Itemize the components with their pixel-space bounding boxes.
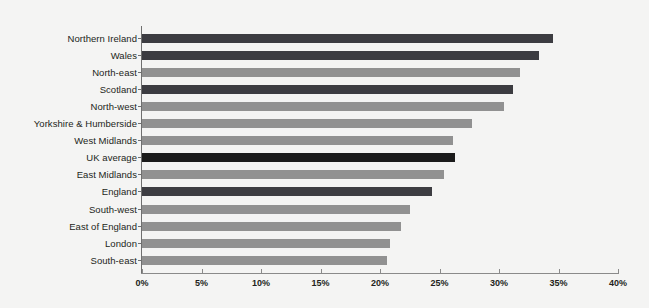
bar-row: Wales [0,47,649,64]
bar-category-label: UK average [0,149,137,166]
bar-row: London [0,235,649,252]
x-axis-tick-mark [202,269,203,274]
x-axis-tick-label: 35% [549,277,567,289]
x-axis-tick-mark [380,269,381,274]
bar-category-label: Scotland [0,81,137,98]
bar-chart: Northern IrelandWalesNorth-eastScotlandN… [0,0,649,308]
bar-category-label: East of England [0,218,137,235]
bar-row: Scotland [0,81,649,98]
bar [142,187,432,196]
bar [142,85,513,94]
bar-row: Yorkshire & Humberside [0,115,649,132]
plot-area: Northern IrelandWalesNorth-eastScotlandN… [0,0,649,308]
bar-row: North-west [0,98,649,115]
bar [142,170,444,179]
bar-category-label: South-east [0,252,137,269]
bar-category-label: West Midlands [0,132,137,149]
bar [142,68,520,77]
bar-category-label: London [0,235,137,252]
bar-category-label: Yorkshire & Humberside [0,115,137,132]
x-axis-tick-mark [440,269,441,274]
bar-row: West Midlands [0,132,649,149]
x-axis-tick-label: 40% [609,277,627,289]
x-axis-tick-label: 0% [135,277,148,289]
bar [142,256,387,265]
x-axis-tick-label: 15% [311,277,329,289]
bar-row: UK average [0,149,649,166]
bar-category-label: East Midlands [0,166,137,183]
bar-category-label: Northern Ireland [0,30,137,47]
bar [142,239,390,248]
bar-row: South-east [0,252,649,269]
bar [142,153,455,162]
x-axis-ticks: 0%5%10%15%20%25%30%35%40% [0,273,649,303]
bar-row: England [0,183,649,200]
bar-category-label: South-west [0,201,137,218]
bar [142,51,539,60]
bar-row: Northern Ireland [0,30,649,47]
bar-row: North-east [0,64,649,81]
bar [142,222,401,231]
bar-category-label: North-west [0,98,137,115]
x-axis-tick-label: 10% [252,277,270,289]
bar [142,119,472,128]
bar-row: East of England [0,218,649,235]
x-axis-tick-mark [559,269,560,274]
bar-category-label: England [0,183,137,200]
x-axis-tick-mark [261,269,262,274]
x-axis-tick-mark [499,269,500,274]
bar-category-label: North-east [0,64,137,81]
x-axis-tick-mark [321,269,322,274]
bar [142,205,410,214]
x-axis-tick-label: 25% [430,277,448,289]
x-axis-tick-label: 20% [371,277,389,289]
bar-row: East Midlands [0,166,649,183]
bar-category-label: Wales [0,47,137,64]
x-axis-tick-mark [142,269,143,274]
bar [142,102,504,111]
bar [142,34,553,43]
bar-row: South-west [0,201,649,218]
x-axis-tick-label: 30% [490,277,508,289]
x-axis-tick-label: 5% [195,277,208,289]
bar [142,136,453,145]
x-axis-tick-mark [618,269,619,274]
